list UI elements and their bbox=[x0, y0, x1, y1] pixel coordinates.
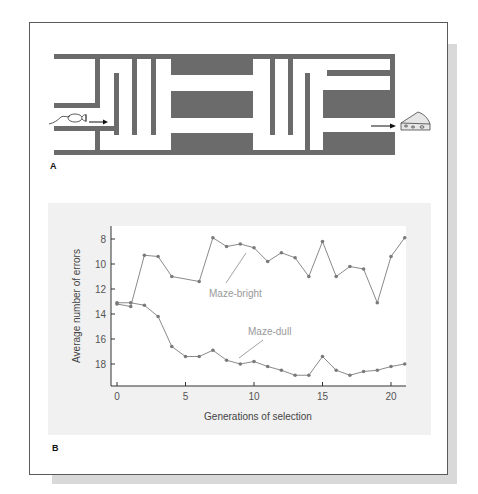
y-axis-title: Average number of errors bbox=[71, 249, 82, 363]
data-point bbox=[348, 373, 352, 377]
data-point bbox=[403, 362, 407, 366]
data-point bbox=[266, 260, 270, 264]
data-point bbox=[156, 255, 160, 259]
series-label-maze-dull: Maze-dull bbox=[248, 326, 291, 337]
data-point bbox=[143, 253, 147, 257]
data-point bbox=[197, 280, 201, 284]
data-point bbox=[307, 275, 311, 279]
data-point bbox=[348, 265, 352, 269]
data-point bbox=[156, 315, 160, 319]
data-point bbox=[293, 373, 297, 377]
data-point bbox=[225, 245, 229, 249]
data-point bbox=[211, 348, 215, 352]
data-point bbox=[129, 305, 133, 309]
data-point bbox=[225, 358, 229, 362]
data-point bbox=[376, 301, 380, 305]
data-point bbox=[334, 275, 338, 279]
x-tick-label: 10 bbox=[248, 391, 260, 402]
plot-area bbox=[111, 226, 406, 386]
data-point bbox=[170, 345, 174, 349]
line-chart: 8101214161805101520Generations of select… bbox=[0, 0, 478, 494]
data-point bbox=[334, 368, 338, 372]
x-tick-label: 5 bbox=[183, 391, 189, 402]
data-point bbox=[252, 360, 256, 364]
data-point bbox=[389, 255, 393, 259]
data-point bbox=[389, 365, 393, 369]
data-point bbox=[307, 373, 311, 377]
data-point bbox=[239, 362, 243, 366]
data-point bbox=[143, 303, 147, 307]
data-point bbox=[115, 301, 119, 305]
y-tick-label: 8 bbox=[100, 234, 106, 245]
x-tick-label: 15 bbox=[317, 391, 329, 402]
data-point bbox=[266, 365, 270, 369]
series-label-maze-bright: Maze-bright bbox=[209, 288, 262, 299]
data-point bbox=[293, 256, 297, 260]
data-point bbox=[362, 267, 366, 271]
x-tick-label: 0 bbox=[114, 391, 120, 402]
data-point bbox=[184, 355, 188, 359]
data-point bbox=[170, 275, 174, 279]
data-point bbox=[376, 368, 380, 372]
data-point bbox=[197, 355, 201, 359]
data-point bbox=[321, 355, 325, 359]
y-tick-label: 12 bbox=[95, 284, 107, 295]
data-point bbox=[252, 246, 256, 250]
data-point bbox=[211, 236, 215, 240]
y-tick-label: 14 bbox=[95, 309, 107, 320]
data-point bbox=[321, 240, 325, 244]
y-tick-label: 10 bbox=[95, 259, 107, 270]
x-tick-label: 20 bbox=[385, 391, 397, 402]
data-point bbox=[280, 368, 284, 372]
y-tick-label: 16 bbox=[95, 334, 107, 345]
data-point bbox=[239, 242, 243, 246]
x-axis-title: Generations of selection bbox=[204, 411, 312, 422]
y-tick-label: 18 bbox=[95, 359, 107, 370]
data-point bbox=[362, 370, 366, 374]
data-point bbox=[403, 236, 407, 240]
data-point bbox=[129, 301, 133, 305]
data-point bbox=[280, 251, 284, 255]
panel-b-label: B bbox=[52, 443, 59, 453]
